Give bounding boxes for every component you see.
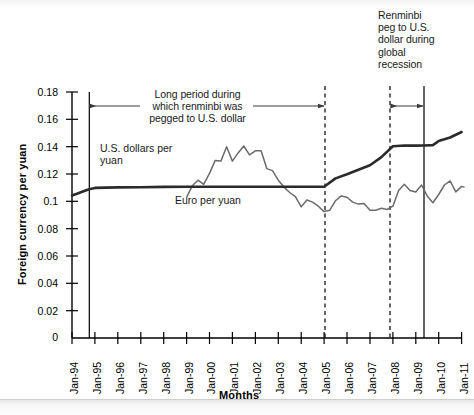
y-tick-label: 0.18 bbox=[14, 86, 58, 98]
annotation-peg-period: Long period during which renminbi was pe… bbox=[140, 88, 255, 125]
series-label-usd-per-yuan: U.S. dollars per yuan bbox=[100, 142, 200, 166]
x-tick-label: Jan-97 bbox=[137, 362, 149, 394]
x-tick-label: Jan-04 bbox=[297, 362, 309, 394]
annotation-recession-line5: recession bbox=[378, 58, 468, 70]
x-tick-label: Jan-98 bbox=[160, 362, 172, 394]
x-tick-label: Jan-99 bbox=[183, 362, 195, 394]
x-tick-label: Jan-95 bbox=[91, 362, 103, 394]
annotation-recession-line4: global bbox=[378, 46, 468, 58]
x-tick-label: Jan-11 bbox=[458, 363, 470, 394]
y-tick-label: 0 bbox=[14, 331, 58, 343]
annotation-recession-line1: Renminbi bbox=[378, 9, 468, 21]
axis-lines bbox=[72, 92, 462, 338]
x-tick-label: Jan-05 bbox=[320, 362, 332, 394]
y-axis-title: Foreign currency per yuan bbox=[16, 144, 28, 285]
x-tick-label: Jan-06 bbox=[343, 362, 355, 394]
page-bottom-edge bbox=[0, 399, 474, 415]
annotation-peg-period-line3: pegged to U.S. dollar bbox=[140, 112, 255, 124]
annotation-recession-line2: peg to U.S. bbox=[378, 21, 468, 33]
x-tick-label: Jan-00 bbox=[205, 362, 217, 394]
series-label-usd-line1: U.S. dollars per bbox=[100, 142, 200, 154]
x-tick-label: Jan-09 bbox=[412, 362, 424, 394]
annotation-peg-period-line2: which renminbi was bbox=[140, 100, 255, 112]
annotation-peg-period-line1: Long period during bbox=[140, 88, 255, 100]
x-tick-label: Jan-08 bbox=[389, 362, 401, 394]
y-tick-label: 0.16 bbox=[14, 113, 58, 125]
x-tick-label: Jan-03 bbox=[274, 362, 286, 394]
y-tick-label: 0.02 bbox=[14, 305, 58, 317]
series-label-euro-per-yuan: Euro per yuan bbox=[175, 194, 241, 206]
series-label-usd-line2: yuan bbox=[100, 154, 200, 166]
x-tick-label: Jan-94 bbox=[68, 362, 80, 394]
x-tick-label: Jan-07 bbox=[366, 362, 378, 394]
x-tick-label: Jan-10 bbox=[435, 362, 447, 394]
annotation-recession-line3: dollar during bbox=[378, 33, 468, 45]
annotation-recession: Renminbi peg to U.S. dollar during globa… bbox=[378, 9, 468, 70]
x-tick-label: Jan-96 bbox=[114, 362, 126, 394]
